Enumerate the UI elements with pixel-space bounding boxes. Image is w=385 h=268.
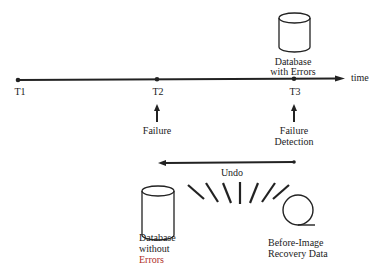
before-image-label: Before-Image <box>268 237 324 248</box>
recovery-data-label: Recovery Data <box>268 248 328 259</box>
t1-dot <box>16 78 21 83</box>
t2-dot <box>155 77 160 82</box>
data-transfer-lines-icon <box>188 182 289 204</box>
t3-label: T3 <box>289 86 300 97</box>
t1-label: T1 <box>14 86 25 97</box>
time-axis-label: time <box>351 72 369 83</box>
undo-label: Undo <box>221 167 243 178</box>
database-with-errors-label-line2: with Errors <box>270 66 315 77</box>
undo-arrow-icon <box>158 160 296 166</box>
database-without-errors-label-line3: Errors <box>139 254 164 265</box>
timeline-arrowhead-icon <box>335 76 345 82</box>
failure-label: Failure <box>143 125 171 136</box>
diagram-canvas <box>0 0 385 268</box>
failure-detection-label-line2: Detection <box>275 136 314 147</box>
failure-arrow-icon <box>154 104 160 122</box>
database-without-errors-label-line1: Database <box>139 232 176 243</box>
t2-label: T2 <box>152 86 163 97</box>
tape-reel-icon <box>283 195 315 225</box>
t3-dot <box>292 76 297 81</box>
failure-detection-arrow-icon <box>291 104 297 122</box>
failure-detection-label-line1: Failure <box>280 125 308 136</box>
database-with-errors-cylinder-icon <box>279 13 310 52</box>
database-without-errors-label-line2: without <box>139 243 170 254</box>
